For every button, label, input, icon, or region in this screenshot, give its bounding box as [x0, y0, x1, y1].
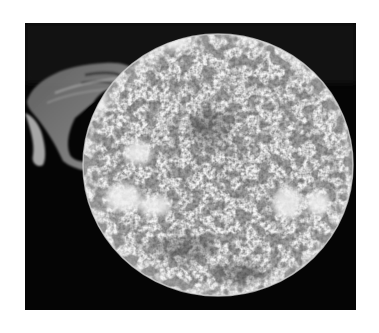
sun-image — [25, 23, 356, 310]
sun-photo-frame — [25, 23, 356, 310]
